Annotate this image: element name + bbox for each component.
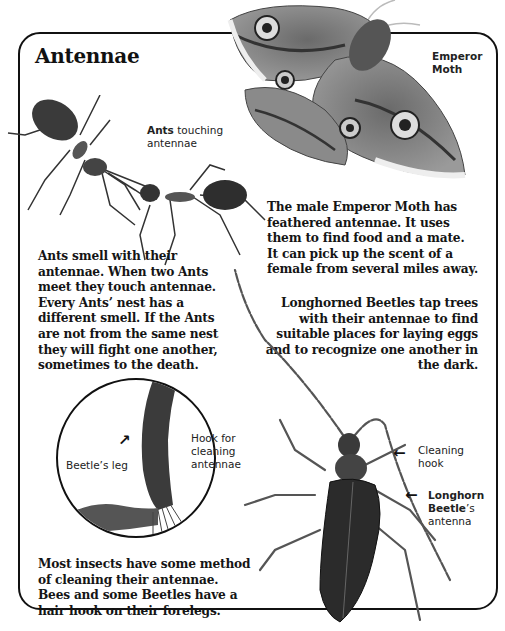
- ants-line: they will fight one another,: [38, 343, 218, 359]
- label-ants-touching-line2: antennae: [147, 137, 223, 150]
- label-longhorn-line3: antenna: [428, 515, 484, 528]
- ants-illustration: [0, 95, 280, 270]
- label-longhorn-bold: Longhorn: [428, 489, 484, 501]
- moth-line: feathered antennae. It uses: [267, 216, 478, 232]
- arrow-beetles-leg-icon: ↗: [118, 433, 131, 448]
- label-cleaning-hook-line1: Cleaning: [418, 444, 464, 457]
- label-emperor-moth-line2: Moth: [432, 63, 482, 76]
- longhorn-beetle-illustration: [225, 250, 495, 631]
- cleaning-line: Bees and some Beetles have a: [38, 588, 250, 604]
- arrow-longhorn-antenna-icon: ←: [405, 488, 418, 503]
- label-hook-line3: antennae: [191, 458, 241, 471]
- ants-line: meet they touch antennae.: [38, 280, 218, 296]
- label-beetle-possessive: ’s: [466, 502, 475, 514]
- label-hook-line1: Hook for: [191, 432, 241, 445]
- arrow-cleaning-hook-icon: ←: [393, 446, 406, 461]
- paragraph-cleaning-antennae: Most insects have some method of cleanin…: [38, 557, 250, 619]
- ants-line: antennae. When two Ants: [38, 265, 218, 281]
- cleaning-line: hair hook on their forelegs.: [38, 604, 250, 620]
- label-ants-bold: Ants: [147, 124, 174, 136]
- ants-line: Ants smell with their: [38, 249, 218, 265]
- label-emperor-moth: Emperor Moth: [432, 50, 482, 76]
- label-hook-line2: cleaning: [191, 445, 241, 458]
- label-longhorn-line2: Beetle’s: [428, 502, 484, 515]
- label-longhorn-beetle-antenna: Longhorn Beetle’s antenna: [428, 489, 484, 528]
- label-emperor-moth-line1: Emperor: [432, 50, 482, 63]
- label-beetles-leg: Beetle’s leg: [66, 459, 128, 472]
- label-hook-for-cleaning-antennae: Hook for cleaning antennae: [191, 432, 241, 471]
- ants-line: sometimes to the death.: [38, 358, 218, 374]
- moth-line: The male Emperor Moth has: [267, 200, 478, 216]
- label-beetle-bold: Beetle: [428, 502, 466, 514]
- page-title: Antennae: [35, 44, 139, 68]
- label-ants-touching-line1: Ants touching: [147, 124, 223, 137]
- moth-line: them to find food and a mate.: [267, 231, 478, 247]
- paragraph-ants: Ants smell with their antennae. When two…: [38, 249, 218, 374]
- label-cleaning-hook: Cleaning hook: [418, 444, 464, 470]
- label-ants-touching: Ants touching antennae: [147, 124, 223, 150]
- ants-line: are not from the same nest: [38, 327, 218, 343]
- label-ants-rest: touching: [174, 124, 223, 136]
- label-cleaning-hook-line2: hook: [418, 457, 464, 470]
- cleaning-line: Most insects have some method: [38, 557, 250, 573]
- ants-line: different smell. If the Ants: [38, 311, 218, 327]
- ants-line: Every Ants’ nest has a: [38, 296, 218, 312]
- label-longhorn-line1: Longhorn: [428, 489, 484, 502]
- cleaning-line: of cleaning their antennae.: [38, 573, 250, 589]
